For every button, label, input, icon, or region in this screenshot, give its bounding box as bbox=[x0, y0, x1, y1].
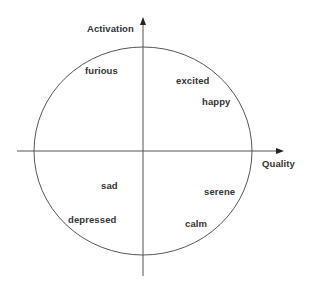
quality-arrow-icon bbox=[276, 148, 284, 154]
emotion-label-furious: furious bbox=[85, 66, 118, 76]
emotion-label-excited: excited bbox=[176, 76, 209, 86]
emotion-label-happy: happy bbox=[202, 97, 230, 107]
emotion-label-depressed: depressed bbox=[68, 215, 116, 225]
circumplex-diagram bbox=[0, 0, 310, 287]
activation-arrow-icon bbox=[140, 17, 146, 25]
emotion-label-sad: sad bbox=[101, 181, 118, 191]
emotion-label-serene: serene bbox=[204, 187, 235, 197]
emotion-label-calm: calm bbox=[185, 219, 207, 229]
quality-axis-label: Quality bbox=[262, 159, 295, 169]
activation-axis-label: Activation bbox=[87, 24, 134, 34]
